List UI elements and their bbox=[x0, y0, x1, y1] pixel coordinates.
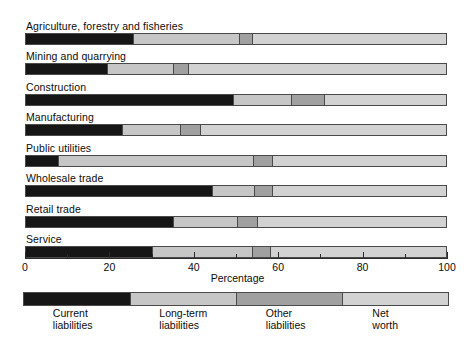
bar-segment bbox=[133, 34, 238, 44]
x-axis-minor-tick bbox=[236, 254, 237, 259]
legend-swatch bbox=[342, 293, 448, 305]
x-axis-minor-tick bbox=[67, 254, 68, 259]
stacked-bar bbox=[25, 94, 447, 106]
bar-group: Manufacturing bbox=[25, 106, 447, 137]
bar-group: Wholesale trade bbox=[25, 167, 447, 198]
bar-group: Public utilities bbox=[25, 136, 447, 167]
bar-segment bbox=[237, 217, 257, 227]
stacked-bar bbox=[25, 124, 447, 136]
legend-swatch bbox=[24, 293, 130, 305]
bar-segment bbox=[253, 156, 272, 166]
x-axis-minor-tick bbox=[320, 254, 321, 259]
bar-category-label: Public utilities bbox=[26, 143, 91, 154]
bar-segment bbox=[26, 156, 58, 166]
x-axis-tick bbox=[109, 252, 110, 259]
x-axis: 020406080100 bbox=[25, 258, 447, 259]
bar-segment bbox=[26, 217, 173, 227]
bar-group: Retail trade bbox=[25, 197, 447, 228]
x-axis-minor-tick bbox=[405, 254, 406, 259]
x-axis-tick bbox=[447, 252, 448, 259]
bar-segment bbox=[188, 64, 446, 74]
bar-segment bbox=[239, 34, 252, 44]
bar-segment bbox=[26, 125, 122, 135]
legend-item-label: Other liabilities bbox=[266, 308, 306, 331]
bar-segment bbox=[272, 156, 446, 166]
bar-segment bbox=[252, 247, 270, 257]
bar-category-label: Mining and quarrying bbox=[26, 51, 126, 62]
legend-swatch bbox=[236, 293, 342, 305]
bar-segment bbox=[26, 186, 212, 196]
bar-segment bbox=[26, 64, 107, 74]
bar-segment bbox=[252, 34, 446, 44]
bar-segment bbox=[200, 125, 446, 135]
bar-group: Construction bbox=[25, 75, 447, 106]
x-axis-tick bbox=[25, 252, 26, 259]
bar-segment bbox=[212, 186, 254, 196]
bar-segment bbox=[270, 247, 446, 257]
stacked-bar bbox=[25, 216, 447, 228]
bar-segment bbox=[26, 34, 133, 44]
bar-segment bbox=[26, 247, 152, 257]
bar-segment bbox=[58, 156, 253, 166]
legend-item-label: Current liabilities bbox=[53, 308, 93, 331]
bar-segment bbox=[324, 95, 446, 105]
bar-segment bbox=[254, 186, 271, 196]
bar-segment bbox=[272, 186, 446, 196]
bar-segment bbox=[173, 217, 237, 227]
bar-category-label: Wholesale trade bbox=[26, 173, 103, 184]
legend-swatch bbox=[130, 293, 236, 305]
legend-item-label: Long-term liabilities bbox=[159, 308, 207, 331]
bar-category-label: Manufacturing bbox=[26, 112, 94, 123]
bar-segment bbox=[26, 95, 233, 105]
stacked-bar bbox=[25, 33, 447, 45]
bar-segment bbox=[291, 95, 324, 105]
x-axis-title: Percentage bbox=[0, 272, 475, 284]
x-axis-minor-tick bbox=[152, 254, 153, 259]
bar-category-label: Retail trade bbox=[26, 204, 81, 215]
legend-swatch-bar bbox=[23, 292, 449, 306]
bar-segment bbox=[233, 95, 291, 105]
bar-category-label: Construction bbox=[26, 82, 86, 93]
legend-labels: Current liabilitiesLong-term liabilities… bbox=[23, 308, 449, 336]
stacked-bar bbox=[25, 155, 447, 167]
bar-segment bbox=[107, 64, 173, 74]
x-axis-tick bbox=[194, 252, 195, 259]
stacked-bar bbox=[25, 63, 447, 75]
bar-group: Mining and quarrying bbox=[25, 45, 447, 76]
bar-group: Agriculture, forestry and fisheries bbox=[25, 14, 447, 45]
bar-segment bbox=[180, 125, 200, 135]
stacked-bar-chart: Agriculture, forestry and fisheriesMinin… bbox=[0, 0, 475, 340]
bar-segment bbox=[122, 125, 180, 135]
bar-category-label: Agriculture, forestry and fisheries bbox=[26, 21, 183, 32]
x-axis-tick bbox=[278, 252, 279, 259]
x-axis-tick bbox=[363, 252, 364, 259]
stacked-bar bbox=[25, 185, 447, 197]
plot-area: Agriculture, forestry and fisheriesMinin… bbox=[25, 14, 447, 258]
bar-segment bbox=[173, 64, 188, 74]
bar-category-label: Service bbox=[26, 234, 62, 245]
bar-segment bbox=[257, 217, 446, 227]
legend-item-label: Net worth bbox=[372, 308, 398, 331]
